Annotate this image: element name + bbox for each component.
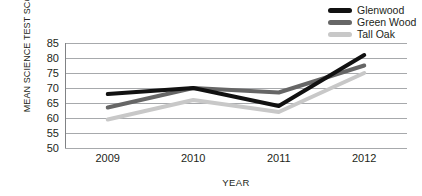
- y-tick-label: 60: [47, 112, 59, 124]
- y-tick-label: 70: [47, 82, 59, 94]
- y-tick-label: 80: [47, 52, 59, 64]
- x-tick-label: 2010: [181, 152, 205, 164]
- x-tick-label: 2011: [267, 152, 291, 164]
- line-chart: Glenwood Green Wood Tall Oak MEAN SCIENC…: [0, 0, 422, 196]
- x-tick-label: 2012: [352, 152, 376, 164]
- series-lines: [108, 55, 365, 120]
- x-tick-labels: 2009201020112012: [96, 152, 377, 164]
- y-tick-label: 65: [47, 97, 59, 109]
- y-tick-labels: 5055606570758085: [47, 37, 59, 154]
- series-line-green-wood: [108, 66, 365, 108]
- y-tick-label: 50: [47, 142, 59, 154]
- x-tick-label: 2009: [96, 152, 120, 164]
- y-tick-label: 75: [47, 67, 59, 79]
- plot-area: 5055606570758085 2009201020112012: [0, 0, 422, 196]
- x-axis-title: YEAR: [65, 177, 407, 188]
- y-tick-label: 85: [47, 37, 59, 49]
- y-tick-label: 55: [47, 127, 59, 139]
